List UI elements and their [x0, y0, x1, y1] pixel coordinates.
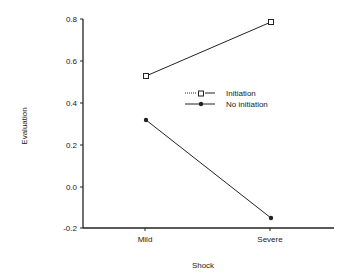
y-tick-label: 0.6 — [66, 57, 78, 66]
series-initiation — [144, 20, 274, 79]
legend-filled-circle-icon — [199, 102, 203, 106]
legend-open-square-icon — [199, 91, 204, 96]
line-chart: 0.8 0.6 0.4 0.2 0.0 -0.2 Mild Severe Sho… — [0, 0, 352, 278]
y-tick-label: 0.8 — [66, 15, 78, 24]
y-tick-label: 0.2 — [66, 141, 78, 150]
legend-label-no-initiation: No initiation — [226, 100, 268, 109]
legend: Initiation No initiation — [185, 89, 268, 109]
y-tick-label: 0.4 — [66, 99, 78, 108]
marker-open-square — [269, 20, 274, 25]
x-ticks: Mild Severe — [138, 228, 284, 244]
y-axis-label: Evaluation — [20, 107, 29, 144]
y-tick-label: -0.2 — [63, 224, 77, 233]
y-tick-label: 0.0 — [66, 183, 78, 192]
marker-open-square — [144, 74, 149, 79]
x-axis-label: Shock — [192, 261, 215, 270]
legend-label-initiation: Initiation — [226, 89, 256, 98]
x-tick-label-severe: Severe — [257, 235, 283, 244]
y-ticks: 0.8 0.6 0.4 0.2 0.0 -0.2 — [63, 15, 83, 233]
marker-filled-circle — [144, 118, 148, 122]
series-no-initiation — [144, 118, 273, 220]
x-tick-label-mild: Mild — [138, 235, 153, 244]
marker-filled-circle — [269, 216, 273, 220]
